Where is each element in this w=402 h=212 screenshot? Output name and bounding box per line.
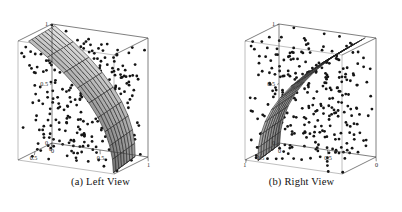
- scatter-point: [127, 80, 130, 83]
- scatter-point: [367, 114, 370, 117]
- scatter-point: [282, 150, 285, 153]
- scatter-point: [339, 90, 342, 93]
- scatter-point: [298, 65, 301, 68]
- cube-edge: [18, 160, 114, 174]
- scatter-point: [282, 59, 285, 62]
- scatter-point: [270, 67, 273, 70]
- scatter-point: [303, 123, 306, 126]
- scatter-point: [328, 118, 331, 121]
- scatter-point: [45, 69, 48, 72]
- scatter-point: [289, 75, 292, 78]
- scatter-point: [314, 141, 317, 144]
- scatter-point: [338, 71, 341, 74]
- scatter-point: [341, 94, 344, 97]
- scatter-point: [257, 74, 260, 77]
- caption-right-view: (b) Right View: [201, 176, 402, 187]
- scatter-point: [343, 157, 346, 160]
- scatter-point: [312, 113, 315, 116]
- scatter-point: [309, 157, 312, 160]
- scatter-point: [104, 56, 107, 59]
- scatter-point: [127, 106, 130, 109]
- scatter-point: [96, 57, 99, 60]
- scatter-point: [20, 52, 23, 55]
- scatter-point: [108, 78, 111, 81]
- scatter-point: [275, 89, 278, 92]
- scatter-point: [312, 97, 315, 100]
- scatter-point: [291, 130, 294, 133]
- scatter-point: [47, 119, 50, 122]
- scatter-point: [276, 47, 279, 50]
- scatter-point: [326, 164, 329, 167]
- scatter-point: [261, 70, 264, 73]
- plot-area-left-view: 10.5000.500.51: [0, 0, 201, 178]
- scatter-point: [362, 65, 365, 68]
- scatter-point: [321, 66, 324, 69]
- scatter-point: [34, 119, 37, 122]
- scatter-point: [94, 117, 97, 120]
- cube-edge: [279, 24, 376, 38]
- axis-tick-label: 0: [278, 147, 281, 154]
- scatter-point: [24, 46, 27, 49]
- scatter-point: [295, 116, 298, 119]
- chart-3d-left-view: 10.5000.500.51: [0, 0, 201, 178]
- scatter-point: [59, 71, 62, 74]
- scatter-point: [325, 78, 328, 81]
- scatter-point: [301, 73, 304, 76]
- scatter-point: [87, 144, 90, 147]
- scatter-point: [303, 87, 306, 90]
- scatter-point: [280, 36, 283, 39]
- scatter-point: [349, 108, 352, 111]
- scatter-point: [353, 133, 356, 136]
- scatter-point: [96, 120, 99, 123]
- scatter-point: [365, 139, 368, 142]
- scatter-point: [72, 152, 75, 155]
- scatter-point: [306, 91, 309, 94]
- scatter-point: [356, 84, 359, 87]
- axis-tick-label: 0: [45, 139, 48, 146]
- scatter-point: [345, 121, 348, 124]
- scatter-point: [313, 131, 316, 134]
- scatter-point: [268, 71, 271, 74]
- scatter-point: [66, 117, 69, 120]
- scatter-point: [337, 115, 340, 118]
- scatter-point: [269, 59, 272, 62]
- scatter-point: [369, 95, 372, 98]
- caption-left-view: (a) Left View: [0, 176, 201, 187]
- scatter-point: [41, 129, 44, 132]
- scatter-point: [275, 157, 278, 160]
- scatter-point: [58, 121, 61, 124]
- scatter-point: [41, 102, 44, 105]
- scatter-point: [48, 113, 51, 116]
- scatter-point: [76, 131, 79, 134]
- scatter-point: [328, 62, 331, 65]
- scatter-point: [287, 55, 290, 58]
- scatter-point: [97, 47, 100, 50]
- scatter-point: [345, 142, 348, 145]
- scatter-point: [349, 79, 352, 82]
- scatter-point: [338, 76, 341, 79]
- scatter-point: [33, 84, 36, 87]
- scatter-point: [80, 151, 83, 154]
- scatter-point: [307, 47, 310, 50]
- scatter-point: [281, 91, 284, 94]
- scatter-point: [350, 114, 353, 117]
- axis-tick-label: 0.5: [40, 80, 48, 87]
- scatter-point: [284, 128, 287, 131]
- scatter-point: [253, 48, 256, 51]
- scatter-point: [75, 156, 78, 159]
- scatter-point: [316, 90, 319, 93]
- scatter-point: [54, 81, 57, 84]
- scatter-point: [300, 51, 303, 54]
- scatter-point: [49, 107, 52, 110]
- scatter-point: [353, 138, 356, 141]
- scatter-point: [287, 70, 290, 73]
- scatter-point: [338, 35, 341, 38]
- scatter-point: [307, 84, 310, 87]
- scatter-point: [65, 90, 68, 93]
- axis-tick-label: 0.5: [324, 154, 332, 161]
- surface-cell: [321, 51, 343, 64]
- scatter-point: [261, 113, 264, 116]
- scatter-point: [327, 170, 330, 173]
- scatter-point: [137, 78, 140, 81]
- scatter-point: [42, 70, 45, 73]
